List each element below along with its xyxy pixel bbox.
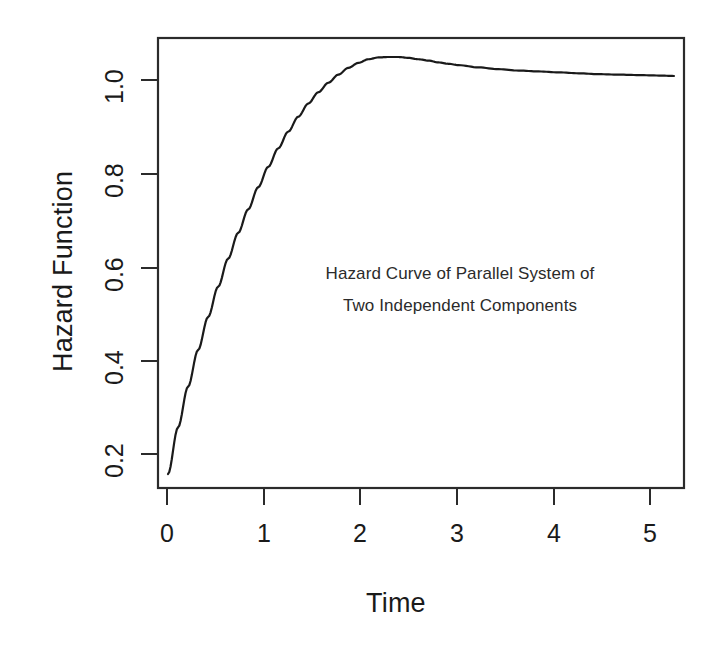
y-tick-label-0point6: 0.6 — [100, 257, 129, 292]
hazard-function-chart: Hazard Function Time 0 1 2 3 4 5 0.2 0.4… — [0, 0, 720, 648]
x-tick-label-1: 1 — [257, 519, 271, 548]
x-tick-label-4: 4 — [547, 519, 561, 548]
x-axis-ticks — [167, 488, 650, 505]
x-tick-label-0: 0 — [160, 519, 174, 548]
y-tick-label-0point2: 0.2 — [100, 443, 129, 478]
annotation-line-2: Two Independent Components — [300, 296, 620, 316]
annotation-line-1: Hazard Curve of Parallel System of — [300, 264, 620, 284]
plot-box-border — [158, 38, 684, 488]
y-axis-ticks — [141, 80, 158, 454]
y-axis-title: Hazard Function — [48, 171, 79, 372]
x-tick-label-2: 2 — [353, 519, 367, 548]
x-axis-title: Time — [366, 588, 426, 619]
y-tick-label-0point8: 0.8 — [100, 163, 129, 198]
x-tick-label-5: 5 — [643, 519, 657, 548]
x-tick-label-3: 3 — [450, 519, 464, 548]
y-tick-label-0point4: 0.4 — [100, 350, 129, 385]
y-tick-label-1point0: 1.0 — [100, 69, 129, 104]
